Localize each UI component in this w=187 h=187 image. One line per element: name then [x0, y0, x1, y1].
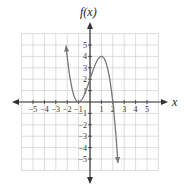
- x-tick-label: −4: [40, 105, 49, 114]
- x-tick-label: 3: [122, 105, 126, 114]
- x-axis-label: x: [171, 95, 178, 109]
- y-tick-label: −5: [78, 155, 87, 164]
- x-tick-label: −5: [29, 105, 38, 114]
- y-tick-label: −4: [78, 144, 87, 153]
- y-tick-label: 4: [83, 52, 87, 61]
- function-graph: −5−4−3−2−112345−5−4−3−2−112345 x f(x): [0, 0, 187, 187]
- y-tick-label: 3: [83, 64, 87, 73]
- y-tick-label: −1: [78, 109, 87, 118]
- x-tick-label: 1: [99, 105, 103, 114]
- x-tick-label: −3: [52, 105, 61, 114]
- x-tick-label: −2: [63, 105, 72, 114]
- y-tick-label: 5: [83, 41, 87, 50]
- y-tick-label: 2: [83, 75, 87, 84]
- x-tick-label: 5: [145, 105, 149, 114]
- curve-arrow-icon: [115, 157, 120, 163]
- axes: [12, 22, 168, 184]
- x-tick-label: 4: [134, 105, 138, 114]
- y-axis-label: f(x): [80, 5, 97, 19]
- y-tick-label: −2: [78, 121, 87, 130]
- y-tick-label: −3: [78, 132, 87, 141]
